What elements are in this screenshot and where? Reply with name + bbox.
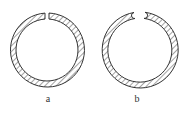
ring-b <box>102 12 178 88</box>
split-rings-diagram <box>0 0 184 113</box>
label-b: b <box>135 94 140 104</box>
ring-a <box>10 13 84 87</box>
label-a: a <box>46 94 50 104</box>
